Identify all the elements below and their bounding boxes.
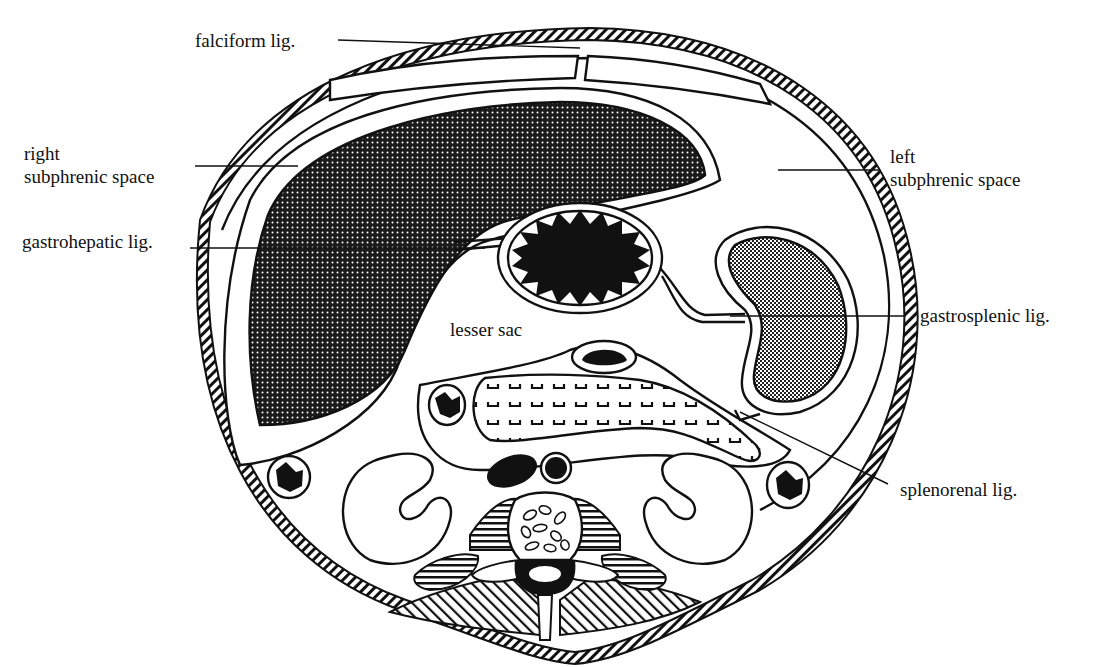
splenic-flexure [767, 462, 809, 508]
label-falciform-text: falciform lig. [195, 30, 295, 51]
label-lesser-sac: lesser sac [450, 319, 522, 340]
stomach [498, 203, 662, 313]
label-right-subphrenic-line1: right [24, 143, 61, 164]
label-gastrosplenic-text: gastrosplenic lig. [920, 305, 1050, 326]
label-right-subphrenic-line2: subphrenic space [24, 166, 154, 187]
label-splenorenal-text: splenorenal lig. [900, 479, 1017, 500]
label-left-subphrenic-line1: left [890, 146, 916, 167]
label-gastrohepatic-text: gastrohepatic lig. [22, 231, 153, 252]
abdominal-cross-section-diagram: falciform lig. right subphrenic space ga… [0, 0, 1095, 667]
right-colon [429, 385, 465, 425]
label-lesser-sac-text: lesser sac [450, 319, 522, 340]
label-left-subphrenic-line2: subphrenic space [890, 169, 1020, 190]
hepatic-flexure [268, 456, 310, 498]
aorta [541, 453, 571, 483]
splenic-vessel [572, 341, 636, 373]
